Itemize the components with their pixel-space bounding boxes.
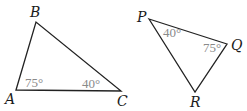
angle-label-a: 75° — [25, 75, 43, 90]
triangle-pqr-outline — [149, 19, 227, 92]
angle-label-p: 40° — [163, 25, 181, 40]
vertex-label-b: B — [29, 4, 40, 20]
vertex-label-a: A — [3, 91, 15, 107]
vertex-label-p: P — [136, 9, 147, 25]
triangle-pqr: P Q R 40° 75° — [136, 9, 243, 110]
triangles-diagram: B A C 75° 40° P Q R 40° 75° — [0, 0, 247, 111]
triangle-abc: B A C 75° 40° — [3, 4, 128, 109]
vertex-label-c: C — [117, 93, 128, 109]
vertex-label-r: R — [189, 94, 201, 110]
vertex-label-q: Q — [231, 37, 243, 53]
angle-label-c: 40° — [82, 76, 100, 91]
angle-label-q: 75° — [203, 40, 221, 55]
